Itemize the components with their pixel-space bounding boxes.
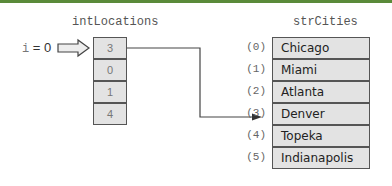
pointer-arrow-icon — [58, 40, 89, 56]
str-cities-index-5: (5) — [236, 151, 266, 163]
str-cities-cell-5: Indianapolis — [272, 147, 370, 169]
str-cities-cell-3: Denver — [272, 103, 370, 125]
int-locations-cell-0: 3 — [93, 37, 127, 59]
str-cities-index-3: (3) — [236, 107, 266, 119]
str-cities-index-0: (0) — [236, 41, 266, 53]
int-locations-cell-1: 0 — [93, 59, 127, 81]
int-locations-cell-3: 4 — [93, 103, 127, 125]
str-cities-cell-2: Atlanta — [272, 81, 370, 103]
str-cities-cell-0: Chicago — [272, 37, 370, 59]
int-locations-cell-2: 1 — [93, 81, 127, 103]
str-cities-cell-4: Topeka — [272, 125, 370, 147]
str-cities-index-1: (1) — [236, 63, 266, 75]
str-cities-index-4: (4) — [236, 129, 266, 141]
str-cities-cell-1: Miami — [272, 59, 370, 81]
str-cities-index-2: (2) — [236, 85, 266, 97]
